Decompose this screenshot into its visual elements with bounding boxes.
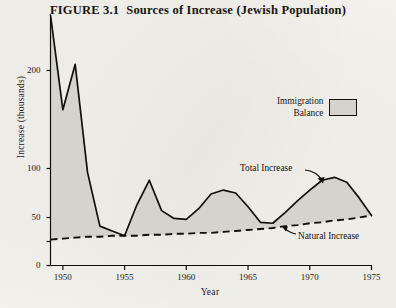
legend-swatch-immigration-balance bbox=[329, 99, 357, 116]
x-axis-label: Year bbox=[150, 287, 270, 297]
annotation-total-increase: Total Increase bbox=[240, 163, 292, 173]
figure-root: FIGURE 3.1Sources of Increase (Jewish Po… bbox=[0, 0, 396, 308]
chart-svg bbox=[0, 0, 396, 308]
y-tick-label: 100 bbox=[1, 163, 41, 173]
legend: Immigration Balance bbox=[277, 96, 357, 119]
y-tick-label: 200 bbox=[1, 65, 41, 75]
chart-plot-area bbox=[0, 0, 396, 308]
immigration-balance-area bbox=[51, 15, 372, 240]
legend-label: Immigration Balance bbox=[277, 96, 323, 119]
legend-label-line1: Immigration bbox=[277, 96, 323, 108]
x-tick-label: 1970 bbox=[288, 272, 332, 282]
legend-label-line2: Balance bbox=[277, 108, 323, 120]
x-tick-label: 1955 bbox=[103, 272, 147, 282]
x-tick-label: 1975 bbox=[350, 272, 394, 282]
x-tick-label: 1950 bbox=[41, 272, 85, 282]
y-tick-label: 0 bbox=[1, 260, 41, 270]
annotation-natural-increase: Natural Increase bbox=[298, 231, 359, 241]
x-tick-label: 1960 bbox=[164, 272, 208, 282]
y-tick-label: 50 bbox=[1, 212, 41, 222]
x-tick-label: 1965 bbox=[226, 272, 270, 282]
